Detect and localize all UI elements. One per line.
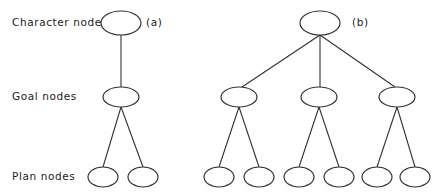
- plan-node-b-4: [324, 167, 354, 187]
- tree-diagram: [0, 0, 442, 193]
- plan-node-b-1: [204, 167, 234, 187]
- goal-node-b-2: [301, 87, 337, 107]
- goal-node-b-3: [379, 87, 415, 107]
- goal-node-a: [103, 87, 139, 107]
- plan-node-b-2: [244, 167, 274, 187]
- plan-node-b-5: [362, 167, 392, 187]
- plan-node-b-6: [400, 167, 430, 187]
- plan-node-a-2: [128, 167, 158, 187]
- plan-node-a-1: [88, 167, 118, 187]
- plan-node-b-3: [284, 167, 314, 187]
- goal-node-b-1: [221, 87, 257, 107]
- character-node-b: [300, 11, 340, 35]
- panel-a-nodes: [88, 11, 158, 187]
- character-node-a: [101, 11, 141, 35]
